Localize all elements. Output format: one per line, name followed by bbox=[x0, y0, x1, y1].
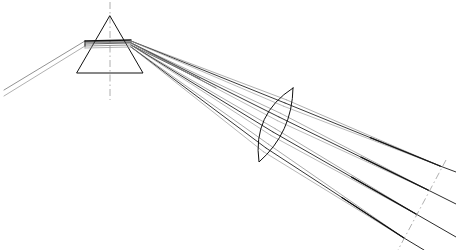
ray-trace-canvas bbox=[0, 0, 456, 250]
diagram-background bbox=[0, 0, 456, 250]
internal-ray-1 bbox=[85, 40, 131, 41]
optical-ray-trace-diagram bbox=[0, 0, 456, 250]
